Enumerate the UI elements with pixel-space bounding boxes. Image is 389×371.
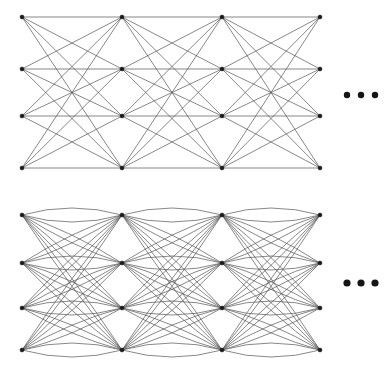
graph-node: [120, 213, 124, 217]
graph-edge: [22, 263, 122, 350]
graph-node: [318, 15, 322, 19]
graph-node: [220, 306, 224, 310]
edge-layer: [22, 17, 320, 168]
graph-node: [220, 166, 224, 170]
graph-edge: [22, 301, 122, 308]
graph-edge: [22, 215, 122, 308]
graph-edge: [122, 215, 222, 308]
graph-node: [20, 166, 24, 170]
graph-edge: [22, 263, 122, 350]
graph-edge: [22, 263, 122, 270]
graph-edge: [122, 350, 222, 357]
ellipsis-dot: [344, 92, 350, 98]
graph-edge: [122, 263, 222, 270]
graph-edge: [122, 256, 222, 263]
curved-edge-graph-panel: [0, 185, 389, 371]
graph-edge: [222, 343, 320, 350]
graph-edge: [222, 308, 320, 315]
ellipsis-icon: [344, 92, 378, 98]
graph-edge: [222, 308, 320, 350]
graph-edge: [122, 343, 222, 350]
graph-node: [220, 348, 224, 352]
graph-edge: [122, 308, 222, 315]
graph-node: [318, 306, 322, 310]
graph-node: [120, 166, 124, 170]
graph-edge: [122, 308, 222, 350]
graph-edge: [22, 308, 122, 315]
graph-edge: [22, 343, 122, 350]
graph-edge: [22, 215, 122, 222]
ellipsis-icon: [343, 279, 378, 286]
curved-edge-graph-canvas: [0, 185, 389, 371]
graph-node: [120, 15, 124, 19]
graph-node: [220, 114, 224, 118]
graph-node: [220, 67, 224, 71]
graph-edge: [22, 308, 122, 350]
straight-edge-graph-panel: [0, 0, 389, 186]
graph-node: [120, 114, 124, 118]
ellipsis-dot: [343, 279, 350, 286]
graph-edge: [222, 208, 320, 215]
node-layer: [20, 213, 322, 352]
graph-edge: [122, 308, 222, 350]
graph-node: [20, 306, 24, 310]
graph-node: [120, 306, 124, 310]
graph-edge: [222, 350, 320, 357]
graph-node: [318, 261, 322, 265]
graph-edge: [22, 263, 122, 350]
graph-edge: [222, 263, 320, 270]
graph-node: [120, 67, 124, 71]
graph-edge: [222, 263, 320, 350]
ellipsis-dot: [372, 92, 378, 98]
graph-edge: [22, 215, 122, 308]
ellipsis-dot: [371, 279, 378, 286]
graph-edge: [122, 301, 222, 308]
graph-edge: [222, 215, 320, 222]
graph-node: [220, 213, 224, 217]
graph-edge: [122, 308, 222, 350]
graph-edge: [222, 215, 320, 308]
graph-node: [20, 213, 24, 217]
graph-edge: [222, 215, 320, 308]
graph-node: [318, 114, 322, 118]
graph-edge: [22, 308, 122, 350]
graph-node: [220, 15, 224, 19]
graph-node: [318, 166, 322, 170]
graph-edge: [22, 215, 122, 308]
graph-edge: [122, 215, 222, 308]
graph-node: [220, 261, 224, 265]
graph-node: [120, 261, 124, 265]
graph-edge: [222, 263, 320, 350]
graph-edge: [222, 308, 320, 350]
graph-edge: [222, 263, 320, 350]
graph-node: [120, 348, 124, 352]
graph-edge: [122, 263, 222, 350]
graph-edge: [222, 301, 320, 308]
graph-edge: [222, 263, 320, 350]
graph-edge: [22, 256, 122, 263]
graph-node: [20, 261, 24, 265]
graph-edge: [22, 308, 122, 350]
graph-edge: [122, 215, 222, 308]
graph-node: [318, 348, 322, 352]
graph-edge: [122, 308, 222, 350]
graph-edge: [222, 308, 320, 350]
ellipsis-dot: [357, 279, 364, 286]
graph-edge: [222, 215, 320, 308]
graph-edge: [22, 208, 122, 215]
graph-node: [20, 15, 24, 19]
straight-edge-graph-canvas: [0, 0, 389, 186]
graph-edge: [122, 208, 222, 215]
graph-edge: [22, 215, 122, 308]
graph-edge: [22, 308, 122, 350]
graph-edge: [222, 308, 320, 350]
graph-edge: [122, 215, 222, 222]
node-layer: [20, 15, 322, 170]
graph-edge: [222, 256, 320, 263]
graph-edge: [122, 215, 222, 308]
graph-node: [20, 114, 24, 118]
edge-layer: [22, 208, 320, 357]
graph-edge: [222, 215, 320, 308]
graph-node: [20, 67, 24, 71]
graph-node: [318, 67, 322, 71]
